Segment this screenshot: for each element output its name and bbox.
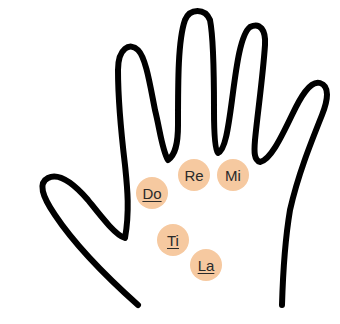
note-re: Re: [178, 159, 210, 191]
note-ti: Ti: [157, 224, 189, 256]
note-label: Re: [184, 167, 203, 184]
note-label: Ti: [167, 232, 179, 249]
note-do: Do: [136, 177, 168, 209]
note-label: Do: [142, 185, 161, 202]
note-la: La: [190, 249, 222, 281]
note-mi: Mi: [217, 159, 249, 191]
note-label: La: [198, 257, 215, 274]
hand-outline: [0, 0, 340, 324]
note-label: Mi: [225, 167, 241, 184]
